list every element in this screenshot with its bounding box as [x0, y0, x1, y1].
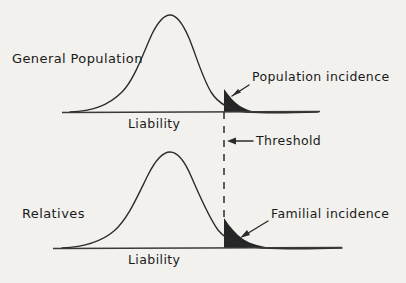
- familial-incidence-shaded-area: [224, 218, 276, 248]
- threshold-label: Threshold: [256, 135, 321, 148]
- liability-axis-label-top: Liability: [128, 118, 180, 131]
- familial-incidence-arrow: [240, 221, 268, 238]
- familial-incidence-label: Familial incidence: [271, 208, 389, 221]
- population-incidence-arrow: [232, 85, 249, 96]
- diagram-canvas: [0, 0, 406, 283]
- relatives-baseline: [53, 248, 342, 249]
- liability-threshold-diagram: General Population Liability Population …: [0, 0, 406, 283]
- relatives-curve: [62, 152, 342, 249]
- general-population-baseline: [62, 112, 320, 113]
- liability-axis-label-bottom: Liability: [128, 254, 180, 267]
- relatives-label: Relatives: [22, 207, 85, 220]
- general-population-label: General Population: [12, 52, 143, 65]
- threshold-arrow: [227, 138, 253, 145]
- population-incidence-label: Population incidence: [252, 71, 390, 84]
